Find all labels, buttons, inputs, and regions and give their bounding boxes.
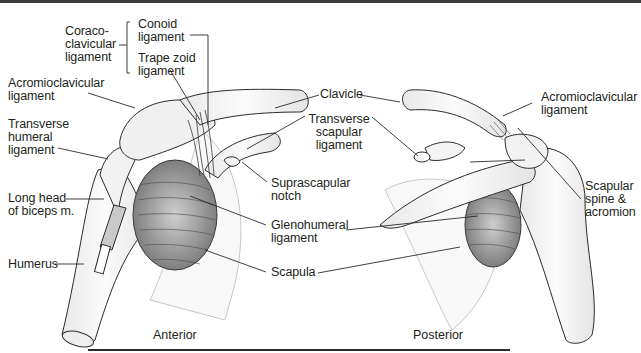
- label-transverse-humeral-ligament: Transverse humeral ligament: [8, 118, 69, 157]
- label-suprascapular-notch: Suprascapular notch: [271, 177, 350, 203]
- caption-anterior: Anterior: [153, 329, 197, 342]
- label-conoid-ligament: Conoid ligament: [138, 18, 184, 44]
- label-scapular-spine-acromion: Scapular spine & acromion: [585, 180, 636, 219]
- label-scapula: Scapula: [271, 266, 315, 279]
- caption-posterior: Posterior: [413, 329, 463, 342]
- label-clavicle: Clavicle: [320, 88, 363, 101]
- label-coracoclavicular-ligament: Coraco- clavicular ligament: [65, 25, 116, 64]
- label-acromioclavicular-ligament-anterior: Acromioclavicular ligament: [8, 77, 104, 103]
- posterior-view-art: [380, 90, 594, 343]
- label-humerus: Humerus: [8, 258, 58, 271]
- label-glenohumeral-ligament: Glenohumeral ligament: [271, 219, 348, 245]
- label-long-head-biceps: Long head of biceps m.: [8, 192, 74, 218]
- label-acromioclavicular-ligament-posterior: Acromioclavicular ligament: [541, 91, 637, 117]
- label-transverse-scapular-ligament: Transverse scapular ligament: [302, 113, 376, 152]
- bottom-rule: [88, 349, 510, 351]
- label-trapezoid-ligament: Trape zoid ligament: [138, 52, 196, 78]
